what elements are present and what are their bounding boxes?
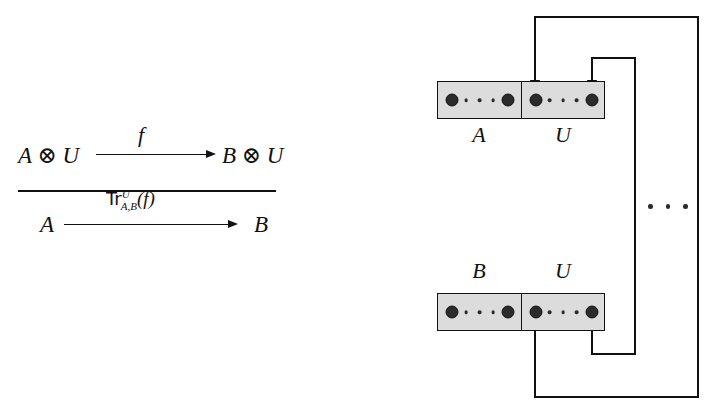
feedback-ellipsis: [648, 204, 688, 209]
bottom-u-ellipsis: [548, 310, 579, 314]
outer-loop-bottom-wire: [535, 396, 699, 398]
bottom-box-cell-b: [438, 294, 521, 330]
top-u-port-right: [586, 94, 599, 107]
inner-loop-bottom-wire: [592, 353, 636, 355]
top-box-label-a: A: [472, 122, 485, 148]
figure-canvas: A ⊗ U f B ⊗ U TrUA,B(f) A B: [0, 0, 711, 414]
outer-loop-top-wire: [535, 16, 699, 18]
bottom-box-label-u: U: [555, 258, 571, 284]
outer-loop-top-drop: [534, 16, 536, 86]
bottom-u-port-right: [586, 306, 599, 319]
bottom-b-port-left: [446, 306, 459, 319]
trace-diagram: A U B U: [0, 0, 711, 414]
outer-loop-right-wire: [697, 16, 699, 398]
bottom-box: [437, 293, 605, 331]
top-a-ellipsis: [464, 98, 495, 102]
top-box: [437, 81, 605, 119]
bottom-b-port-right: [502, 306, 515, 319]
top-a-port-right: [502, 94, 515, 107]
bottom-u-port-left: [530, 306, 543, 319]
top-box-cell-u: [521, 82, 604, 118]
inner-loop-right-wire: [634, 57, 636, 355]
top-u-port-left: [530, 94, 543, 107]
inner-loop-top-wire: [592, 57, 636, 59]
bottom-box-label-b: B: [472, 258, 485, 284]
bottom-b-ellipsis: [464, 310, 495, 314]
top-a-port-left: [446, 94, 459, 107]
bottom-box-cell-u: [521, 294, 604, 330]
top-box-label-u: U: [555, 122, 571, 148]
top-u-ellipsis: [548, 98, 579, 102]
top-box-cell-a: [438, 82, 521, 118]
